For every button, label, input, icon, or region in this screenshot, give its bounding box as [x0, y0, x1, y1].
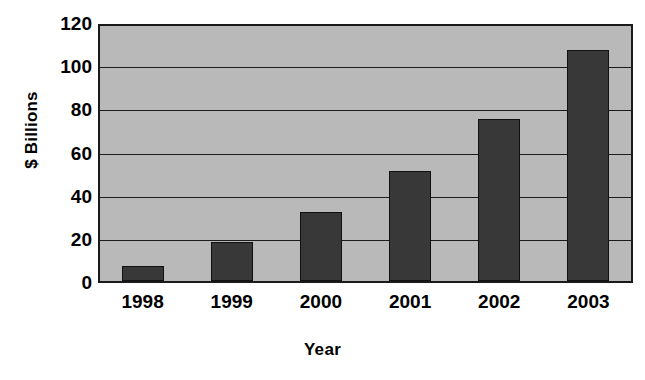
- y-tick-label: 40: [36, 187, 92, 206]
- bar: [122, 266, 164, 281]
- bar: [389, 171, 431, 281]
- y-axis-tick-labels: 020406080100120: [30, 0, 92, 300]
- bars-layer: [100, 26, 631, 281]
- bar-chart: $ Billions 020406080100120 1998199920002…: [0, 0, 645, 380]
- bar: [211, 242, 253, 281]
- x-tick-label: 2001: [366, 292, 455, 311]
- y-tick-label: 100: [36, 57, 92, 76]
- x-axis-title: Year: [0, 340, 645, 360]
- x-tick-label: 1999: [187, 292, 276, 311]
- x-tick-label: 2000: [276, 292, 365, 311]
- bar: [478, 119, 520, 281]
- plot-area: [98, 24, 633, 283]
- y-tick-label: 120: [36, 14, 92, 33]
- x-tick-label: 1998: [98, 292, 187, 311]
- y-tick-label: 20: [36, 230, 92, 249]
- bar: [300, 212, 342, 281]
- bar: [567, 50, 609, 281]
- y-tick-label: 60: [36, 144, 92, 163]
- y-tick-label: 80: [36, 100, 92, 119]
- x-tick-label: 2002: [455, 292, 544, 311]
- x-axis-tick-labels: 199819992000200120022003: [98, 292, 633, 322]
- x-tick-label: 2003: [544, 292, 633, 311]
- y-tick-label: 0: [36, 273, 92, 292]
